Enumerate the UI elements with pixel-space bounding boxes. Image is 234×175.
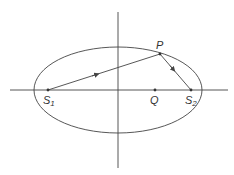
label-s2-sub: 2 xyxy=(191,99,197,108)
point-s1 xyxy=(47,89,50,92)
segment-p-s2 xyxy=(160,54,191,90)
point-p xyxy=(159,53,162,56)
arrow-icon-p-s2 xyxy=(170,66,174,70)
segment-s1-p xyxy=(48,54,160,90)
label-s1-sub: 1 xyxy=(50,99,54,108)
label-s1: S1 xyxy=(43,94,55,108)
point-q xyxy=(154,89,157,92)
ellipse-diagram: P Q S1 S2 xyxy=(0,0,234,175)
point-s2 xyxy=(190,89,193,92)
label-s2: S2 xyxy=(185,94,197,108)
label-p: P xyxy=(156,39,164,51)
label-q: Q xyxy=(150,94,159,106)
